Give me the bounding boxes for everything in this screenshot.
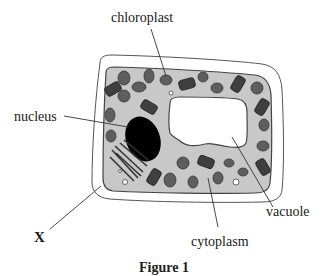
label-cytoplasm: cytoplasm <box>191 235 249 249</box>
label-vacuole: vacuole <box>266 205 310 219</box>
label-x: X <box>34 230 45 245</box>
label-chloroplast: chloroplast <box>111 11 173 25</box>
vacuole <box>169 97 247 147</box>
label-nucleus: nucleus <box>14 110 57 124</box>
figure-caption: Figure 1 <box>139 260 189 276</box>
